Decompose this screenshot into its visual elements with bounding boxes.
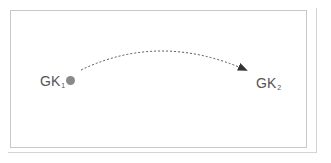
node-label-gk1: GK1 [40, 73, 65, 89]
node-label-subscript: 1 [61, 82, 65, 89]
node-label-subscript: 2 [277, 84, 281, 91]
node-dot-gk1 [66, 76, 75, 85]
node-label-text: GK [40, 73, 60, 89]
node-label-text: GK [256, 75, 276, 91]
node-label-gk2: GK2 [256, 75, 281, 91]
